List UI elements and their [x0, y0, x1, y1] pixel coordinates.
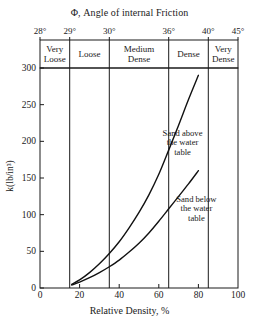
curve-series-0 [72, 75, 199, 284]
chart-figure: Φ, Angle of internal Friction 28°29°30°3… [0, 0, 259, 331]
curve-series-1 [72, 171, 199, 285]
plot-area [0, 0, 259, 331]
